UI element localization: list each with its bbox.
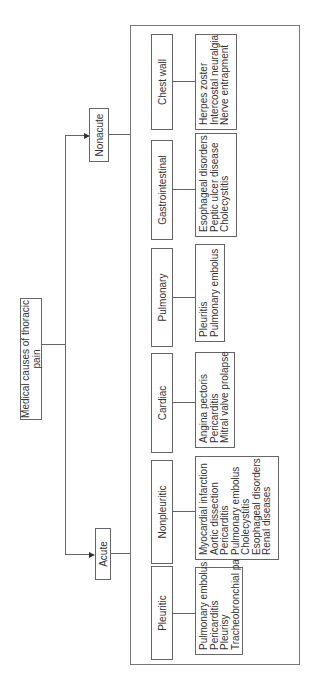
list-item: Pulmonary embolus	[210, 249, 221, 337]
list-item: Tracheobronchial pain	[231, 572, 242, 650]
category-nonpleuritic: Nonpleuritic	[151, 460, 173, 564]
list-pulmonary: Pleuritis Pulmonary embolus	[195, 244, 225, 342]
cardiac-connector	[173, 402, 195, 403]
list-item: Pleuritis	[199, 249, 210, 337]
root-label: Medical causes of thoracic pain	[20, 299, 42, 419]
chest-wall-connector	[173, 81, 195, 82]
list-cardiac: Angina pectoris Pericarditis Mitral valv…	[195, 352, 235, 448]
list-item: Angina pectoris	[199, 357, 210, 443]
list-item: Cholecystitis	[220, 138, 231, 232]
list-chest-wall: Herpes zoster Intercostal neuralgia Nerv…	[195, 34, 237, 130]
nonpleuritic-connector	[173, 511, 195, 512]
nonacute-box: Nonacute	[89, 108, 109, 162]
list-item: Myocardial infarction	[199, 461, 210, 555]
category-pleuritic: Pleuritic	[151, 566, 173, 660]
diagram-canvas: Medical causes of thoracic pain Acute No…	[0, 0, 319, 680]
gastrointestinal-connector	[173, 189, 195, 190]
list-item: Renal diseases	[262, 461, 273, 555]
category-chest-wall: Chest wall	[151, 34, 173, 130]
nonacute-label: Nonacute	[94, 114, 105, 157]
split-connector	[65, 135, 66, 555]
nonacute-to-bracket	[109, 134, 130, 135]
acute-box: Acute	[95, 528, 111, 580]
pleuritic-connector	[173, 613, 195, 614]
list-gastrointestinal: Esophageal disorders Peptic ulcer diseas…	[195, 133, 237, 237]
list-item: Pleurisy	[220, 572, 231, 650]
category-gastrointestinal: Gastrointestinal	[151, 140, 173, 240]
list-item: Nerve entrapment	[220, 39, 231, 125]
root-connector	[42, 344, 65, 345]
list-item: Esophageal disorders	[199, 138, 210, 232]
list-item: Cholecystitis	[241, 461, 252, 555]
root-box: Medical causes of thoracic pain	[20, 298, 42, 420]
list-pleuritic: Pulmonary embolus Pericarditis Pleurisy …	[195, 567, 243, 655]
category-cardiac: Cardiac	[151, 353, 173, 453]
list-item: Pericarditis	[220, 461, 231, 555]
acute-connector	[65, 554, 90, 555]
nonacute-connector	[65, 135, 85, 136]
list-item: Herpes zoster	[199, 39, 210, 125]
list-item: Pulmonary embolus	[199, 572, 210, 650]
pulmonary-connector	[173, 297, 195, 298]
list-item: Mitral valve prolapse	[220, 357, 231, 443]
acute-label: Acute	[98, 541, 109, 567]
list-nonpleuritic: Myocardial infarction Aortic dissection …	[195, 456, 279, 560]
category-pulmonary: Pulmonary	[151, 248, 173, 347]
acute-to-bracket	[111, 553, 130, 554]
